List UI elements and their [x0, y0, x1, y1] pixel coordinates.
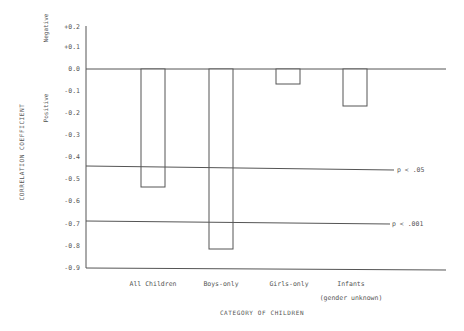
negative-side-label: Negative	[42, 13, 50, 42]
svg-text:-0.4: -0.4	[64, 153, 80, 161]
category-label-girls-only: Girls-only	[269, 280, 308, 288]
positive-side-label: Positive	[42, 93, 49, 122]
x-axis-title: CATEGORY OF CHILDREN	[220, 309, 304, 316]
x-axis	[86, 268, 446, 270]
category-sublabel-infants: (gender unknown)	[320, 294, 383, 302]
bar-girls-only	[276, 69, 300, 84]
svg-text:-0.8: -0.8	[64, 242, 80, 250]
correlation-bar-chart: CORRELATION COEFFICIENT Negative Positiv…	[0, 0, 464, 331]
svg-text:-0.6: -0.6	[64, 197, 80, 205]
svg-text:-0.7: -0.7	[64, 220, 80, 228]
p001-reference-line	[86, 221, 390, 224]
svg-text:-0.9: -0.9	[64, 264, 80, 272]
svg-text:-0.2: -0.2	[64, 109, 80, 117]
bar-all-children	[141, 69, 165, 187]
category-label-infants: Infants	[337, 280, 364, 288]
p001-label: p < .001	[392, 220, 423, 228]
svg-text:+0.1: +0.1	[64, 43, 80, 51]
category-label-all-children: All Children	[130, 280, 177, 288]
svg-text:-0.1: -0.1	[64, 87, 80, 95]
p05-label: p < .05	[397, 166, 424, 174]
y-axis-title: CORRELATION COEFFICIENT	[18, 104, 25, 201]
y-tick-labels: +0.2 +0.1 0.0 -0.1 -0.2 -0.3 -0.4 -0.5 -…	[64, 23, 80, 272]
svg-text:-0.5: -0.5	[64, 175, 80, 183]
p05-reference-line	[86, 166, 394, 170]
bar-infants	[343, 69, 367, 106]
svg-text:+0.2: +0.2	[64, 23, 80, 31]
category-label-boys-only: Boys-only	[203, 280, 238, 288]
svg-text:-0.3: -0.3	[64, 131, 80, 139]
svg-text:0.0: 0.0	[68, 65, 80, 73]
